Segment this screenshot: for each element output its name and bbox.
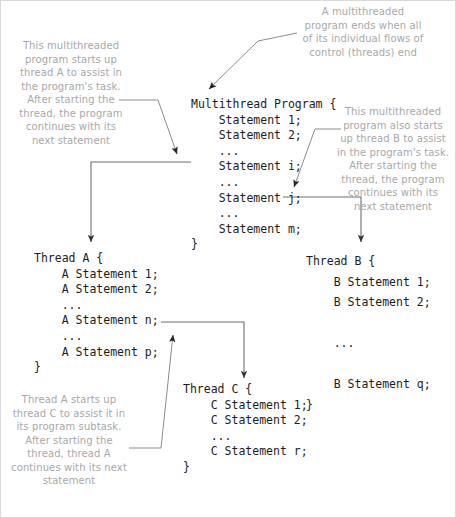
code-block-thread-c: Thread C { C Statement 1; C Statement 2;… — [183, 382, 308, 476]
note-right: This multithreaded program also starts u… — [331, 105, 455, 213]
note-top: A multithreaded program ends when all of… — [273, 5, 453, 59]
connector-thread-a-to-thread-c — [161, 322, 244, 378]
note-bottom-left: Thread A starts up thread C to assist it… — [5, 393, 133, 488]
connector-main-to-thread-a — [91, 162, 191, 242]
diagram-canvas: A multithreaded program ends when all of… — [0, 0, 456, 518]
note-left: This multithreaded program starts up thr… — [7, 39, 135, 147]
code-block-multithread-program: Multithread Program { Statement 1; State… — [191, 97, 336, 253]
code-block-thread-a: Thread A { A Statement 1; A Statement 2;… — [34, 251, 159, 376]
code-block-thread-b: Thread B { B Statement 1; B Statement 2;… — [306, 251, 431, 415]
